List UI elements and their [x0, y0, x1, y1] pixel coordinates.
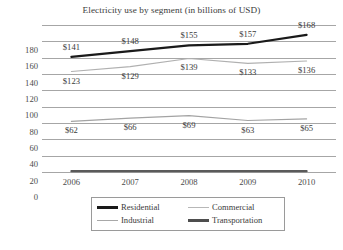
- data-label: $66: [107, 123, 153, 132]
- data-label: $136: [284, 66, 330, 75]
- x-axis: 20062007200820092010: [42, 178, 336, 192]
- y-axis-tick-label: 160: [4, 62, 38, 71]
- data-label: $139: [166, 63, 212, 72]
- y-axis-tick-label: 80: [4, 128, 38, 137]
- chart-legend: ResidentialCommercialIndustrialTransport…: [91, 197, 285, 231]
- data-label: $155: [166, 31, 212, 40]
- legend-line-icon: [97, 206, 118, 208]
- x-axis-tick-label: 2010: [285, 178, 329, 187]
- data-label: $129: [107, 72, 153, 81]
- data-label: $141: [48, 43, 94, 52]
- legend-item[interactable]: Transportation: [188, 216, 279, 225]
- chart-container: Electricity use by segment (in billions …: [0, 0, 343, 250]
- x-axis-tick-label: 2009: [226, 178, 270, 187]
- x-axis-tick-label: 2008: [167, 178, 211, 187]
- legend-label: Residential: [121, 203, 160, 212]
- y-axis-tick-label: 120: [4, 95, 38, 104]
- legend-item[interactable]: Industrial: [97, 216, 188, 225]
- data-label: $148: [107, 37, 153, 46]
- legend-line-icon: [188, 219, 209, 221]
- data-label: $63: [225, 126, 271, 135]
- legend-label: Industrial: [121, 216, 154, 225]
- data-label: $62: [48, 126, 94, 135]
- y-axis-tick-label: 140: [4, 79, 38, 88]
- legend-item[interactable]: Residential: [97, 203, 188, 212]
- y-axis-tick-label: 40: [4, 160, 38, 169]
- data-label: $157: [225, 30, 271, 39]
- y-axis-tick-label: 100: [4, 111, 38, 120]
- y-axis-tick-label: 0: [4, 193, 38, 202]
- y-axis-tick-label: 20: [4, 177, 38, 186]
- legend-line-icon: [97, 220, 118, 221]
- x-axis-tick-label: 2006: [49, 178, 93, 187]
- legend-item[interactable]: Commercial: [188, 203, 279, 212]
- legend-line-icon: [188, 207, 209, 208]
- plot-area: $141$148$155$157$168$123$129$139$133$136…: [42, 25, 336, 172]
- y-axis: 020406080100120140160180: [0, 25, 38, 172]
- legend-label: Transportation: [212, 216, 262, 225]
- data-label: $168: [284, 21, 330, 30]
- chart-title: Electricity use by segment (in billions …: [0, 5, 343, 15]
- data-label: $123: [48, 77, 94, 86]
- data-label: $133: [225, 68, 271, 77]
- y-axis-tick-label: 60: [4, 144, 38, 153]
- data-label: $65: [284, 124, 330, 133]
- data-label: $69: [166, 121, 212, 130]
- y-axis-tick-label: 180: [4, 46, 38, 55]
- legend-label: Commercial: [212, 203, 254, 212]
- x-axis-tick-label: 2007: [108, 178, 152, 187]
